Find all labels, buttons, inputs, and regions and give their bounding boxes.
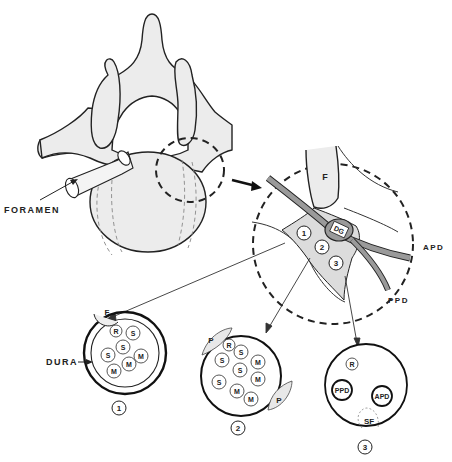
apd-label: APD	[423, 243, 444, 252]
foramen-label: FORAMEN	[4, 205, 60, 215]
upper-contour	[338, 146, 398, 192]
cross-section-3: SF R PPD APD 3	[325, 344, 407, 454]
section-2-p-label-2: P	[276, 396, 282, 405]
svg-text:S: S	[220, 357, 225, 364]
section-1-number: 1	[117, 404, 122, 413]
svg-text:S: S	[121, 344, 126, 351]
cross-section-1: F R S S S M M M 1	[84, 308, 166, 416]
magnify-arrowhead	[251, 181, 262, 191]
svg-text:S: S	[239, 349, 244, 356]
svg-text:R: R	[349, 361, 354, 368]
section-3-number: 3	[363, 443, 368, 452]
facet-label: F	[322, 172, 328, 182]
svg-text:R: R	[226, 342, 231, 349]
svg-text:S: S	[131, 330, 136, 337]
svg-text:M: M	[248, 396, 254, 403]
ppd-label: PPD	[388, 296, 409, 305]
dura-label: DURA	[46, 357, 78, 367]
svg-text:APD: APD	[375, 393, 390, 400]
svg-text:M: M	[255, 359, 261, 366]
svg-text:M: M	[255, 376, 261, 383]
svg-text:1: 1	[302, 229, 307, 238]
zone-3: 3	[329, 256, 343, 270]
svg-text:R: R	[113, 328, 118, 335]
section-2-number: 2	[236, 424, 241, 433]
sf-label: SF	[364, 417, 374, 426]
svg-text:S: S	[106, 352, 111, 359]
cross-section-2: P P R S S S S M M M M 2	[201, 328, 292, 435]
articular-process-right	[175, 59, 197, 145]
svg-text:3: 3	[334, 259, 339, 268]
svg-text:M: M	[234, 388, 240, 395]
section-1-facet-label: F	[105, 308, 110, 317]
vertebra	[38, 14, 232, 255]
svg-text:PPD: PPD	[335, 387, 349, 394]
anatomy-diagram: FORAMEN F DG 1 2	[0, 0, 452, 462]
svg-text:2: 2	[320, 243, 325, 252]
svg-text:S: S	[217, 379, 222, 386]
zone-1: 1	[297, 226, 311, 240]
section-2-p-label-1: P	[208, 336, 214, 345]
zone-2: 2	[315, 240, 329, 254]
svg-text:M: M	[126, 361, 132, 368]
svg-text:M: M	[138, 353, 144, 360]
svg-text:M: M	[111, 368, 117, 375]
svg-text:S: S	[238, 367, 243, 374]
